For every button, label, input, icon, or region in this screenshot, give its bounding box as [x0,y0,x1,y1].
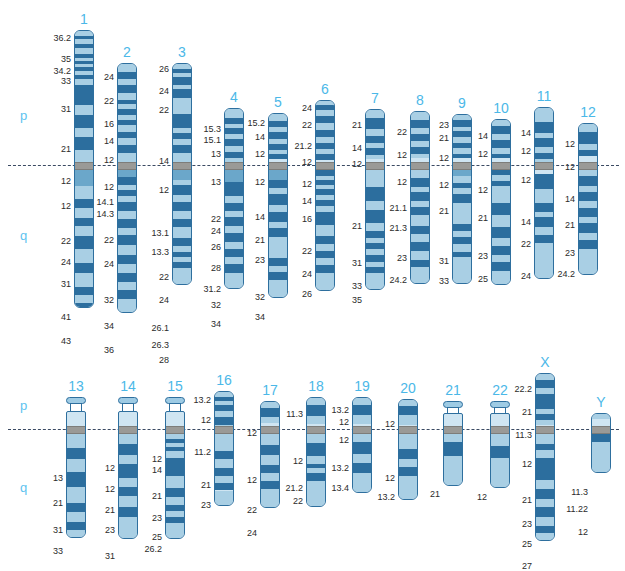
chromosome-21[interactable]: 21 [443,401,463,486]
band [269,228,287,237]
band [261,408,279,417]
band [215,417,233,425]
chromosome-19[interactable]: 19 [352,397,372,493]
band [366,273,384,290]
chromosome-22[interactable]: 22 [490,401,510,488]
band [67,448,85,459]
band [75,273,93,287]
chromosome-12[interactable]: 12 [578,123,598,275]
band [269,258,287,266]
band [366,187,384,201]
band-label: 33 [439,277,449,286]
band-label: 13.2 [193,396,211,405]
band [535,189,553,203]
band [492,238,510,246]
band [444,456,462,486]
band [453,257,471,284]
band-label: 21 [152,492,162,501]
chromosome-17[interactable]: 17 [260,401,280,508]
chromosome-3[interactable]: 3 [172,63,192,285]
band [535,203,553,212]
band-label: 23 [478,252,488,261]
band-label: 21.3 [389,224,407,233]
band [491,458,509,488]
band-label: 21 [201,481,211,490]
band [215,434,233,451]
band [399,459,417,467]
band [118,273,136,282]
band [366,255,384,262]
band [316,251,334,258]
band [536,420,554,425]
band [307,434,325,443]
band [411,251,429,260]
chromosome-body-12 [578,123,598,275]
band [173,98,191,114]
band [166,476,184,488]
band [225,242,243,249]
chromosome-5[interactable]: 5 [268,113,288,298]
band [353,434,371,442]
band [579,192,597,201]
centromere-15 [166,426,184,434]
chromosome-2[interactable]: 2 [117,63,137,313]
chromosome-10[interactable]: 10 [491,119,511,285]
chromosome-7[interactable]: 7 [365,109,385,290]
centromere-4 [225,162,243,170]
band [316,130,334,137]
band [535,108,553,122]
band-label: 12 [302,180,312,189]
band [75,170,93,186]
chromosome-label-X: X [540,355,549,369]
band [316,273,334,291]
band [119,464,137,478]
band [75,115,93,128]
band [75,287,93,295]
chromosome-16[interactable]: 16 [214,391,234,506]
band [579,208,597,217]
band-label: 22 [397,128,407,137]
band [166,451,184,458]
band [118,290,136,299]
chromosome-row-1: p q 136.23534.23331211212222431414322422… [0,0,625,340]
chromosome-X[interactable]: X [535,373,555,541]
band-label: 21 [105,506,115,515]
band [492,140,510,148]
chromosome-1[interactable]: 1 [74,30,94,308]
chromosome-11[interactable]: 11 [534,107,554,279]
band [173,202,191,211]
band [118,299,136,313]
chromosome-label-21: 21 [445,383,461,397]
band [67,487,85,503]
chromosome-8[interactable]: 8 [410,111,430,284]
band-label: 24 [159,296,169,305]
band-label: 23 [152,514,162,523]
chromosome-6[interactable]: 6 [315,100,335,291]
chromosome-13[interactable]: 13 [66,397,86,538]
band [579,201,597,208]
chromosome-15[interactable]: 15 [165,397,185,539]
band-label: 11.3 [571,488,588,497]
band [118,177,136,185]
band-label: 12 [385,474,395,483]
band [173,145,191,153]
chromosome-9[interactable]: 9 [452,114,472,284]
chromosome-label-8: 8 [416,93,424,107]
band-label: 21.1 [389,204,407,213]
chromosome-14[interactable]: 14 [118,397,138,539]
centromere-2 [118,162,136,170]
band [353,442,371,454]
band [535,227,553,235]
chromosome-body-3 [172,63,192,285]
band-label: 32 [211,301,221,310]
band [491,446,509,458]
chromosome-20[interactable]: 20 [398,399,418,500]
band [225,226,243,233]
band-label: 22 [104,236,114,245]
chromosome-4[interactable]: 4 [224,108,244,289]
chromosome-body-4 [224,108,244,289]
band [166,523,184,539]
chromosome-18[interactable]: 18 [306,397,326,507]
centromere-18 [307,426,325,434]
chromosome-Y[interactable]: Y [591,413,611,473]
